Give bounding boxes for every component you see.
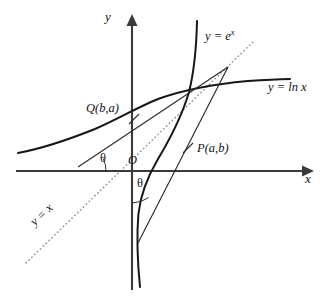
exponential-curve-label: y = ex: [205, 28, 235, 43]
curve-exponential: [137, 21, 197, 287]
q-point-tick-icon: [129, 114, 139, 124]
x-axis-label: x: [305, 172, 311, 185]
theta-upper-label: θ: [100, 152, 106, 165]
q-point-label: Q(b,a): [86, 102, 119, 115]
secant-line-through-p: [138, 67, 228, 243]
math-figure: y x O y = ex y = ln x y = x Q(b,a) P(a,b…: [0, 0, 334, 299]
exponential-label-base: y = e: [205, 29, 231, 43]
p-point-label: P(a,b): [197, 142, 229, 155]
logarithm-curve-label: y = ln x: [268, 81, 307, 94]
exponential-label-exponent: x: [231, 27, 235, 37]
theta-lower-label: θ: [137, 177, 143, 190]
y-axis-arrow-icon: [127, 14, 138, 26]
diagram-canvas: [0, 0, 334, 299]
y-axis-label: y: [105, 10, 111, 23]
origin-label: O: [128, 154, 137, 167]
